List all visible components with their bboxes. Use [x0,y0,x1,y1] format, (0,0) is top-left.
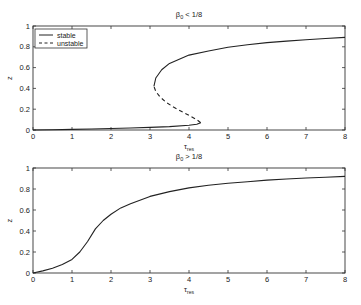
x-tick-label: 5 [226,275,230,284]
title-rest: > 1/8 [183,152,202,161]
y-tick-label: 0.6 [20,63,30,72]
stable-curve [33,123,201,130]
stable-curve [33,176,345,273]
y-tick-label: 0 [26,269,30,278]
y-tick-label: 1 [26,22,30,31]
unstable-curve [154,86,201,122]
x-tick-label: 8 [343,132,347,141]
top-plot-panel: 01234567800.20.40.60.81β0 < 1/8τreszstab… [5,10,347,152]
y-tick-label: 0.6 [20,206,30,215]
y-tick-label: 0.8 [20,42,30,51]
xlabel-subscript: res [187,289,194,295]
x-tick-label: 7 [304,275,308,284]
x-tick-label: 4 [187,132,191,141]
y-tick-label: 0.8 [20,185,30,194]
x-tick-label: 6 [265,132,269,141]
y-tick-label: 0.4 [20,84,30,93]
y-axis-label: z [5,218,14,222]
x-axis-label: τres [184,142,194,152]
x-tick-label: 2 [109,275,113,284]
x-tick-label: 1 [70,275,74,284]
x-tick-label: 2 [109,132,113,141]
plot-title: β0 > 1/8 [176,152,202,162]
bottom-plot-panel: 01234567800.20.40.60.81β0 > 1/8τresz [5,152,347,295]
plot-title: β0 < 1/8 [176,10,202,20]
x-tick-label: 3 [148,132,152,141]
y-tick-label: 0.4 [20,227,30,236]
legend-label: stable [57,32,76,39]
legend-label: unstable [57,40,84,47]
y-axis-label: z [5,76,14,80]
axes-frame [33,168,345,273]
x-tick-label: 4 [187,275,191,284]
title-rest: < 1/8 [183,10,202,19]
x-tick-label: 0 [31,132,35,141]
y-tick-label: 0.2 [20,248,30,257]
legend: stableunstable [35,29,87,48]
stable-curve [154,37,345,86]
x-tick-label: 8 [343,275,347,284]
x-tick-label: 7 [304,132,308,141]
x-tick-label: 0 [31,275,35,284]
x-tick-label: 6 [265,275,269,284]
x-tick-label: 3 [148,275,152,284]
y-tick-label: 0.2 [20,105,30,114]
x-tick-label: 5 [226,132,230,141]
y-tick-label: 1 [26,164,30,173]
x-tick-label: 1 [70,132,74,141]
y-tick-label: 0 [26,126,30,135]
x-axis-label: τres [184,285,194,295]
figure: 01234567800.20.40.60.81β0 < 1/8τreszstab… [0,0,361,305]
